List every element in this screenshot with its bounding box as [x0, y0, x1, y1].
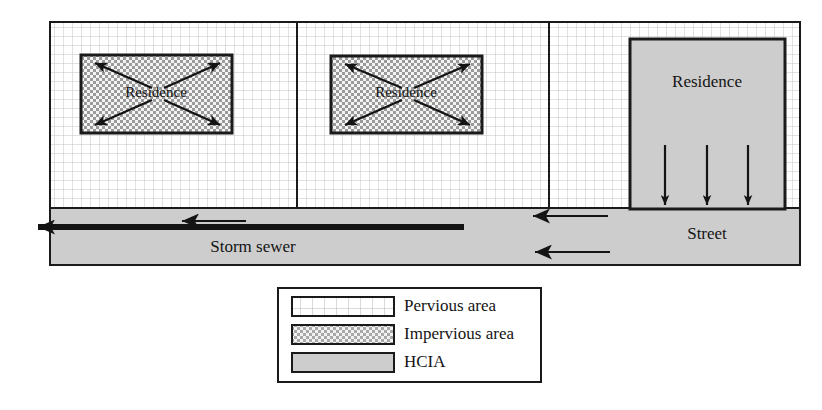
residence-1: Residence	[81, 55, 232, 133]
residence-2-label: Residence	[375, 84, 437, 100]
legend-swatch-pervious	[292, 297, 394, 316]
legend-swatch-hcia	[292, 353, 394, 372]
legend-label-impervious: Impervious area	[404, 324, 514, 343]
legend-item-hcia: HCIA	[292, 352, 446, 372]
residence-1-label: Residence	[125, 84, 187, 100]
legend-item-impervious: Impervious area	[292, 324, 514, 344]
site-block: Residence Residence Residence	[38, 22, 800, 265]
legend: Pervious area Impervious area HCIA	[278, 288, 541, 382]
legend-item-pervious: Pervious area	[292, 296, 497, 316]
residence-2: Residence	[331, 56, 482, 133]
legend-label-pervious: Pervious area	[404, 296, 497, 315]
drainage-schematic: Residence Residence Residence	[0, 0, 822, 410]
street-label: Street	[687, 224, 727, 243]
residence-3: Residence	[630, 39, 785, 209]
figure-canvas: Residence Residence Residence	[0, 0, 822, 410]
legend-label-hcia: HCIA	[404, 352, 446, 371]
storm-sewer-label: Storm sewer	[210, 237, 296, 256]
residence-3-label: Residence	[672, 72, 742, 91]
legend-swatch-impervious	[292, 325, 394, 344]
